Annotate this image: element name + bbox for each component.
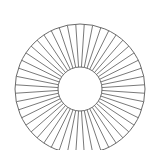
inner-circle	[58, 67, 102, 111]
spoke-line	[31, 104, 63, 132]
spoke-line	[67, 25, 75, 67]
spoke-line	[18, 68, 59, 82]
spoke-line	[101, 96, 142, 110]
spoke-line	[81, 24, 84, 67]
spoke-line	[84, 111, 92, 150]
spoke-line	[18, 96, 59, 110]
spoke-line	[87, 110, 101, 150]
spoke-line	[102, 85, 145, 88]
spoke-line	[59, 27, 73, 68]
spoke-line	[37, 40, 65, 72]
spoke-line	[59, 110, 73, 150]
spoke-line	[76, 24, 79, 67]
spoke-line	[97, 104, 129, 132]
spoke-line	[87, 27, 101, 68]
spoke-line	[95, 40, 123, 72]
spoke-line	[102, 76, 144, 84]
spoke-line	[15, 90, 58, 93]
spoke-line	[101, 68, 142, 82]
spoke-line	[81, 111, 84, 150]
spoke-line	[16, 76, 58, 84]
spoke-line	[37, 106, 65, 138]
spoked-ring-diagram	[0, 0, 159, 150]
spoke-line	[67, 111, 75, 150]
spoke-line	[15, 85, 58, 88]
diagram-canvas	[0, 0, 159, 150]
spoke-line	[102, 93, 144, 101]
spoke-line	[16, 93, 58, 101]
spoke-line	[95, 106, 123, 138]
spoke-line	[76, 111, 79, 150]
spoke-line	[31, 46, 63, 74]
spoke-line	[84, 25, 92, 67]
spoke-line	[97, 46, 129, 74]
spoke-line	[102, 90, 145, 93]
